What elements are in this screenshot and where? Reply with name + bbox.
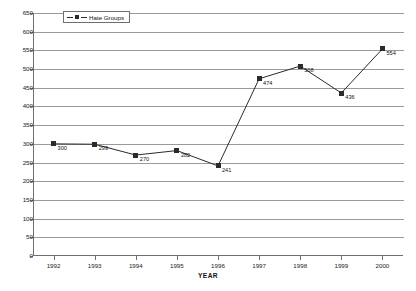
data-point-label: 270 — [140, 156, 149, 162]
data-point-marker — [257, 76, 262, 81]
x-tick-label: 1993 — [75, 262, 115, 269]
x-axis: 199219931994199519961997199819992000 — [33, 256, 405, 272]
y-tick-label: 500 — [7, 66, 33, 72]
x-tick-label: 1998 — [280, 262, 320, 269]
y-tick-label: 400 — [7, 103, 33, 109]
legend-label-hate-groups: Hate Groups — [89, 14, 124, 21]
x-tick-mark — [341, 256, 342, 260]
chart-container: 050100150200250300350400450500550600650 … — [0, 0, 416, 291]
data-point-marker — [380, 46, 385, 51]
y-tick-label: 300 — [7, 141, 33, 147]
data-point-marker — [298, 64, 303, 69]
y-tick-label: 650 — [7, 10, 33, 16]
y-tick-label: 450 — [7, 85, 33, 91]
y-tick-label: 200 — [7, 178, 33, 184]
chart-legend: Hate Groups — [63, 11, 130, 23]
data-point-label: 436 — [345, 94, 354, 100]
data-point-marker — [51, 141, 56, 146]
data-point-marker — [92, 142, 97, 147]
x-tick-label: 2000 — [362, 262, 402, 269]
x-tick-label: 1995 — [157, 262, 197, 269]
data-point-label: 241 — [222, 167, 231, 173]
x-tick-mark — [54, 256, 55, 260]
y-tick-label: 350 — [7, 122, 33, 128]
y-tick-label: 600 — [7, 29, 33, 35]
data-point-label: 282 — [181, 152, 190, 158]
x-tick-mark — [300, 256, 301, 260]
x-tick-mark — [136, 256, 137, 260]
x-tick-label: 1996 — [198, 262, 238, 269]
legend-line-icon-right — [81, 17, 87, 18]
x-axis-title: YEAR — [0, 272, 416, 279]
data-point-label: 554 — [386, 50, 395, 56]
y-tick-label: 0 — [7, 253, 33, 259]
data-point-label: 508 — [304, 67, 313, 73]
data-point-label: 300 — [58, 145, 67, 151]
data-point-marker — [174, 148, 179, 153]
x-tick-mark — [218, 256, 219, 260]
y-tick-label: 550 — [7, 47, 33, 53]
x-tick-mark — [382, 256, 383, 260]
x-tick-mark — [259, 256, 260, 260]
y-tick-label: 100 — [7, 216, 33, 222]
legend-line-icon — [67, 17, 73, 18]
y-tick-label: 50 — [7, 234, 33, 240]
legend-marker-icon — [75, 15, 79, 19]
series-hate-groups — [33, 13, 403, 256]
data-point-label: 299 — [99, 145, 108, 151]
x-tick-label: 1997 — [239, 262, 279, 269]
x-tick-label: 1992 — [34, 262, 74, 269]
x-tick-mark — [177, 256, 178, 260]
y-tick-label: 150 — [7, 197, 33, 203]
x-tick-mark — [95, 256, 96, 260]
x-tick-label: 1999 — [321, 262, 361, 269]
data-point-marker — [339, 91, 344, 96]
y-axis: 050100150200250300350400450500550600650 — [0, 0, 33, 291]
data-point-label: 474 — [263, 80, 272, 86]
y-tick-label: 250 — [7, 160, 33, 166]
data-point-marker — [133, 153, 138, 158]
data-point-marker — [216, 163, 221, 168]
x-tick-label: 1994 — [116, 262, 156, 269]
